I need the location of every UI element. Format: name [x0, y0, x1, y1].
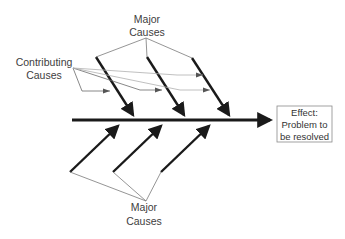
effect-label-line1: Effect:: [291, 107, 318, 118]
contributing-causes-label-line2: Causes: [26, 69, 62, 81]
major-cause-bone-upper-3: [192, 58, 229, 115]
fishbone-diagram: Major Causes Contributing Causes Major C…: [0, 0, 345, 239]
major-causes-bottom-label-line1: Major: [131, 201, 158, 213]
major-cause-bone-upper-2: [147, 57, 184, 115]
contributing-arrow-4: [73, 68, 210, 90]
contributing-causes-leaders: [73, 68, 210, 91]
major-causes-bottom-label-line2: Causes: [126, 215, 162, 227]
major-causes-bottom-leaders: [70, 172, 161, 201]
major-causes-top-label-line2: Causes: [129, 26, 165, 38]
effect-label-line2: Problem to: [282, 119, 328, 130]
major-cause-bone-lower-2: [113, 126, 161, 172]
major-cause-bone-lower-3: [161, 126, 209, 172]
effect-label-line3: be resolved: [280, 131, 329, 142]
contributing-causes-label-line1: Contributing: [16, 56, 73, 68]
major-cause-bone-lower-1: [70, 126, 118, 172]
contributing-arrow-3: [73, 68, 203, 75]
major-causes-top-label-line1: Major: [134, 13, 161, 25]
major-causes-top-leaders: [96, 38, 192, 58]
